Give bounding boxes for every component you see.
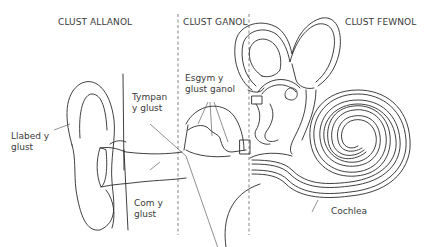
label-cochlea: Cochlea [331, 206, 367, 217]
ear-canal-shape [97, 141, 186, 187]
label-ossicles: Esgym y glust ganol [185, 73, 235, 95]
label-pinna: Llabed y glust [11, 131, 49, 153]
pinna-shape [67, 74, 128, 230]
cochlea-shape [252, 90, 410, 212]
ear-canal-leader [150, 162, 160, 170]
section-label-inner-ear: CLUST FEWNOL [345, 17, 416, 28]
semicircular-canals-shape [235, 18, 341, 154]
ear-anatomy-diagram: CLUST ALLANOL CLUST GANOL CLUST FEWNOL L… [0, 0, 426, 247]
label-ear-canal: Com y glust [134, 198, 163, 220]
section-label-middle-ear: CLUST GANOL [183, 17, 248, 28]
label-eardrum: Tympan y glust [132, 92, 167, 114]
section-label-outer-ear: CLUST ALLANOL [58, 17, 132, 28]
